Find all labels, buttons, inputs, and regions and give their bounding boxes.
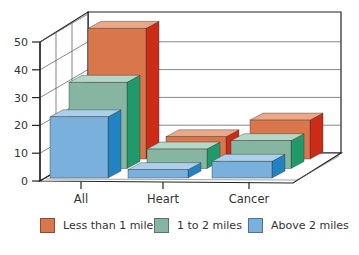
legend-item-above-2-miles: Above 2 miles (248, 218, 349, 233)
legend-label: 1 to 2 miles (177, 219, 242, 232)
y-tick-label: 0 (21, 175, 28, 188)
legend-swatch-red (40, 218, 55, 233)
bar-heart-above-2-miles (128, 163, 201, 178)
legend-label: Less than 1 mile (63, 219, 153, 232)
y-tick-label: 20 (14, 119, 28, 132)
y-tick-label: 40 (14, 64, 28, 77)
bar-top-face (128, 163, 201, 170)
bar-all-above-2-miles (50, 110, 121, 178)
bar-front-face (50, 117, 108, 178)
legend-swatch-green (154, 218, 169, 233)
bar-front-face (212, 161, 272, 178)
x-axis: AllHeartCancer (74, 182, 270, 206)
legend: Less than 1 mile 1 to 2 miles Above 2 mi… (0, 218, 359, 244)
y-tick-label: 30 (14, 92, 28, 105)
bar-top-face (69, 75, 140, 82)
bar-side-face (146, 21, 159, 159)
bar-cancer-above-2-miles (212, 154, 285, 178)
y-axis: 01020304050 (14, 36, 40, 188)
legend-label: Above 2 miles (271, 219, 349, 232)
bar-top-face (250, 113, 323, 120)
legend-item-1-to-2-miles: 1 to 2 miles (154, 218, 242, 233)
x-category-label: Cancer (229, 192, 270, 206)
bar-side-face (108, 110, 121, 178)
bar-side-face (310, 113, 323, 159)
y-tick-label: 50 (14, 36, 28, 49)
bar-top-face (212, 154, 285, 161)
bar-top-face (231, 134, 304, 141)
x-category-label: All (74, 192, 88, 206)
bar-front-face (128, 170, 188, 178)
legend-item-less-than-1-mile: Less than 1 mile (40, 218, 153, 233)
bar-top-face (166, 130, 239, 137)
legend-swatch-blue (248, 218, 263, 233)
bar-top-face (88, 21, 159, 28)
bar-side-face (127, 75, 140, 168)
y-tick-label: 10 (14, 147, 28, 160)
bar-top-face (50, 110, 121, 117)
bar-chart-3d: 01020304050 AllHeartCancer (0, 0, 359, 218)
bar-top-face (147, 142, 220, 149)
x-category-label: Heart (147, 192, 179, 206)
